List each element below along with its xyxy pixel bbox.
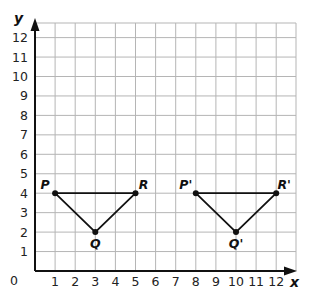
y-tick-label: 12 xyxy=(12,30,28,45)
x-tick-label: 11 xyxy=(248,274,264,289)
point-label: P xyxy=(41,177,50,192)
point-marker-icon xyxy=(92,229,98,235)
point-label: P' xyxy=(179,177,192,192)
origin-label: 0 xyxy=(10,273,18,288)
y-tick-label: 9 xyxy=(20,88,28,103)
y-tick-label: 7 xyxy=(20,127,28,142)
x-tick-label: 2 xyxy=(71,274,79,289)
x-tick-label: 5 xyxy=(132,274,140,289)
x-tick-label: 8 xyxy=(192,274,200,289)
x-tick-label: 7 xyxy=(172,274,180,289)
point-marker-icon xyxy=(52,190,58,196)
point-marker-icon xyxy=(233,229,239,235)
y-tick-label: 11 xyxy=(12,50,28,65)
y-tick-label: 4 xyxy=(20,186,28,201)
triangle-PQR: PQR xyxy=(41,177,149,251)
x-tick-label: 12 xyxy=(268,274,284,289)
x-tick-label: 4 xyxy=(111,274,119,289)
point-label: Q xyxy=(90,236,101,251)
x-tick-label: 1 xyxy=(51,274,59,289)
point-label: R' xyxy=(277,177,290,192)
coordinate-plane: 123456789101112123456789101112 PQRP'Q'R'… xyxy=(0,0,313,303)
point-marker-icon xyxy=(133,190,139,196)
y-tick-label: 3 xyxy=(20,205,28,220)
tick-labels: 123456789101112123456789101112 xyxy=(12,30,284,289)
grid-lines xyxy=(35,23,296,271)
point-marker-icon xyxy=(193,190,199,196)
y-tick-label: 8 xyxy=(20,108,28,123)
triangles: PQRP'Q'R' xyxy=(41,177,291,251)
y-tick-label: 2 xyxy=(20,225,28,240)
x-tick-label: 10 xyxy=(228,274,244,289)
point-label: R xyxy=(139,177,149,192)
y-axis-label: y xyxy=(14,10,24,26)
x-tick-label: 3 xyxy=(91,274,99,289)
y-tick-label: 1 xyxy=(20,244,28,259)
x-tick-label: 9 xyxy=(212,274,220,289)
x-tick-label: 6 xyxy=(152,274,160,289)
y-tick-label: 5 xyxy=(20,166,28,181)
y-tick-label: 10 xyxy=(12,69,28,84)
y-axis-arrow-icon xyxy=(31,18,40,31)
x-axis-label: x xyxy=(289,274,300,290)
point-label: Q' xyxy=(229,236,243,251)
y-tick-label: 6 xyxy=(20,147,28,162)
